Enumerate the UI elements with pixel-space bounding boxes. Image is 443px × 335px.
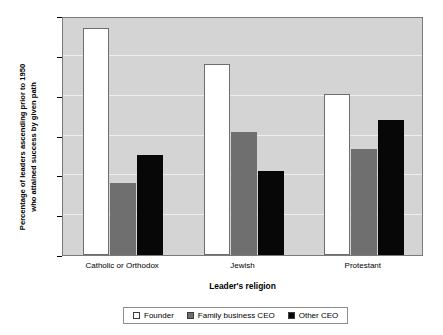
y-axis-title-line-2: who attained success by given path [28, 22, 39, 272]
bar-founder [324, 94, 350, 255]
bar-other [137, 155, 163, 255]
y-axis-title: Percentage of leaders ascending prior to… [17, 22, 47, 272]
y-axis-title-line-1: Percentage of leaders ascending prior to… [17, 22, 28, 272]
legend-label: Founder [144, 311, 174, 320]
gridline [63, 55, 422, 56]
bar-other [258, 171, 284, 255]
x-axis-title: Leader's religion [62, 281, 423, 291]
legend-label: Family business CEO [198, 311, 275, 320]
bar-founder [204, 64, 230, 255]
legend-entry: Family business CEO [187, 311, 275, 320]
legend-swatch-icon [288, 312, 295, 319]
x-axis-tick-label: Catholic or Orthodox [62, 261, 182, 270]
legend-entry: Founder [133, 311, 174, 320]
legend-label: Other CEO [299, 311, 339, 320]
legend-swatch-icon [133, 312, 140, 319]
bar-other [378, 120, 404, 255]
bar-chart: Percentage of leaders ascending prior to… [0, 0, 443, 335]
plot-area [62, 17, 423, 256]
x-axis-tick-label: Protestant [303, 261, 423, 270]
bar-family [231, 132, 257, 255]
bar-family [351, 149, 377, 255]
legend-swatch-icon [187, 312, 194, 319]
legend-entry: Other CEO [288, 311, 339, 320]
bar-family [110, 183, 136, 255]
chart-legend: FounderFamily business CEOOther CEO [123, 307, 348, 324]
gridline [63, 95, 422, 96]
bar-founder [83, 28, 109, 255]
x-axis-tick-label: Jewish [182, 261, 302, 270]
y-axis-tick-mark [57, 256, 62, 257]
